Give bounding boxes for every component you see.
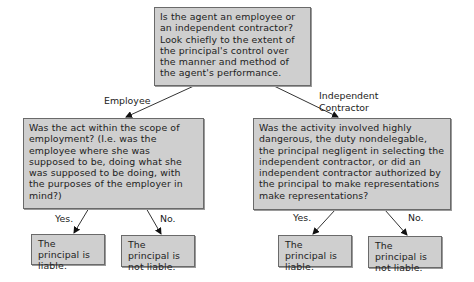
root-question-text: Is the agent an employee or an independe… <box>160 11 295 78</box>
contractor-not-liable-box: The principal is not liable. <box>368 236 442 268</box>
employee-not-liable-box: The principal is not liable. <box>121 235 195 267</box>
edge-label-employee-no: No. <box>160 213 176 224</box>
edge-label-contractor: Contractor <box>319 102 369 113</box>
contractor-not-liable-text: The principal is not liable. <box>375 240 427 273</box>
root-question-box: Is the agent an employee or an independe… <box>154 7 311 86</box>
employee-question-text: Was the act within the scope of employme… <box>29 122 183 201</box>
contractor-question-box: Was the activity involved highly dangero… <box>253 118 451 210</box>
employee-not-liable-text: The principal is not liable. <box>128 239 180 272</box>
edge-label-contractor-yes: Yes. <box>293 212 311 223</box>
contractor-liable-box: The principal is liable. <box>278 235 352 267</box>
edge-label-employee: Employee <box>104 95 150 106</box>
edge-label-independent: Independent <box>319 90 378 101</box>
employee-liable-box: The principal is liable. <box>31 234 105 265</box>
employee-question-box: Was the act within the scope of employme… <box>23 118 204 209</box>
contractor-question-text: Was the activity involved highly dangero… <box>259 122 444 201</box>
edge-label-contractor-no: No. <box>408 212 424 223</box>
edge-label-employee-yes: Yes. <box>55 213 73 224</box>
